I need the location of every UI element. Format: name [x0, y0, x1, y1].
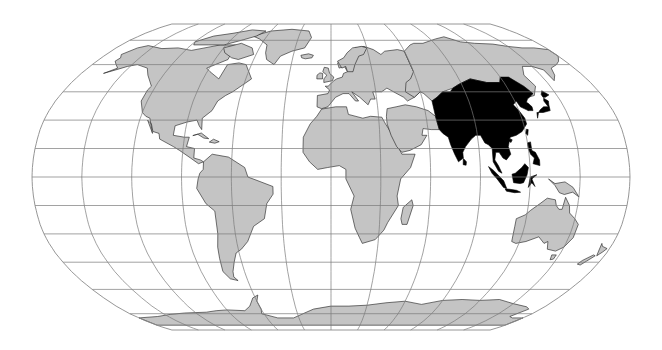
region-java: [505, 189, 521, 193]
region-cuba: [193, 133, 209, 139]
region-new-guinea: [549, 179, 579, 197]
region-great-britain: [323, 67, 334, 82]
map-canvas: [0, 0, 662, 350]
region-south-america: [197, 154, 273, 280]
region-canadian-arctic-islands: [194, 30, 266, 45]
region-tasmania: [550, 255, 556, 260]
region-greenland: [253, 29, 311, 64]
region-antarctica: [139, 295, 529, 325]
region-ireland: [317, 73, 323, 79]
region-north-america: [104, 45, 252, 164]
region-sulawesi: [528, 175, 537, 188]
region-new-zealand-south: [577, 255, 595, 265]
region-madagascar: [401, 200, 413, 225]
region-iceland: [301, 54, 314, 59]
region-sri-lanka: [463, 158, 466, 165]
region-japan: [537, 98, 550, 118]
region-hispaniola: [209, 139, 219, 143]
world-map: World map with Asia highlighted: [0, 0, 662, 350]
graticule: [32, 24, 630, 330]
region-borneo: [512, 164, 528, 184]
